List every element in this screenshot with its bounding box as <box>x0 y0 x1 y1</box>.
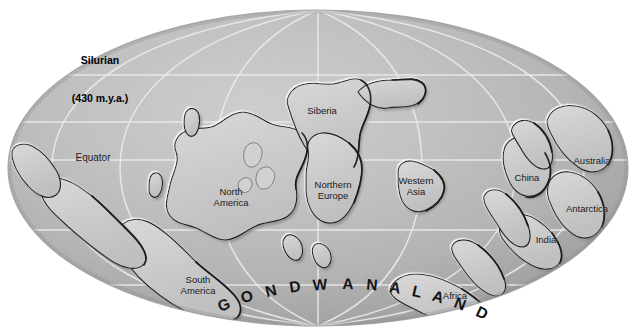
paleogeographic-map: Silurian (430 m.y.a.) EquatorNorth Ameri… <box>0 0 636 335</box>
map-title-period: Silurian <box>72 54 128 67</box>
map-title-age: (430 m.y.a.) <box>72 92 128 105</box>
map-title: Silurian (430 m.y.a.) <box>72 29 128 129</box>
